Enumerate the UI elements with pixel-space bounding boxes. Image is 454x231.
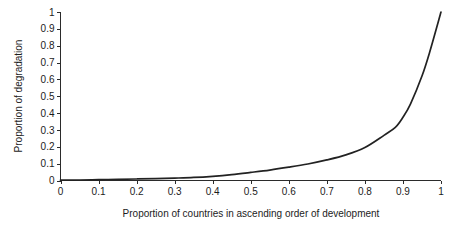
chart-figure: 00.10.20.30.40.50.60.70.80.91 00.10.20.3… [0, 0, 454, 231]
y-axis-title: Proportion of degradation [13, 40, 24, 153]
y-tick-label: 0 [49, 175, 55, 186]
x-tick-label: 0.1 [92, 186, 106, 197]
y-tick-label: 0.5 [41, 91, 55, 102]
x-axis-title: Proportion of countries in ascending ord… [123, 208, 380, 219]
y-tick-label: 0.4 [41, 108, 55, 119]
x-tick-label: 0.8 [358, 186, 372, 197]
x-tick-label: 0.2 [130, 186, 144, 197]
x-axis-ticks [62, 181, 442, 185]
x-tick-label: 0.6 [282, 186, 296, 197]
x-tick-label: 0.5 [244, 186, 258, 197]
y-tick-label: 0.8 [41, 40, 55, 51]
x-tick-label: 0.4 [206, 186, 220, 197]
y-axis-tick-labels: 00.10.20.30.40.50.60.70.80.91 [41, 7, 55, 187]
line-chart: 00.10.20.30.40.50.60.70.80.91 00.10.20.3… [0, 0, 454, 231]
y-tick-label: 0.7 [41, 57, 55, 68]
y-tick-label: 1 [49, 7, 55, 18]
data-series-line [61, 12, 442, 180]
x-axis-tick-labels: 00.10.20.30.40.50.60.70.80.91 [58, 186, 445, 197]
y-tick-label: 0.2 [41, 141, 55, 152]
y-tick-label: 0.3 [41, 125, 55, 136]
y-tick-label: 0.6 [41, 74, 55, 85]
x-tick-label: 0.9 [396, 186, 410, 197]
x-tick-label: 0.7 [320, 186, 334, 197]
y-tick-label: 0.9 [41, 23, 55, 34]
x-tick-label: 1 [438, 186, 444, 197]
x-tick-label: 0.3 [168, 186, 182, 197]
plot-area [61, 12, 442, 181]
y-axis-ticks [57, 13, 61, 182]
x-tick-label: 0 [58, 186, 64, 197]
y-tick-label: 0.1 [41, 158, 55, 169]
